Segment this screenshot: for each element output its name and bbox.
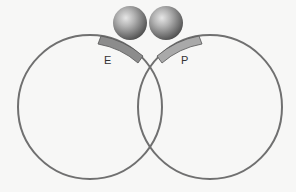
sphere-right: [149, 6, 183, 40]
sphere-left: [113, 6, 147, 40]
label-p: P: [181, 54, 188, 66]
site-p-tab: [157, 36, 202, 63]
two-site-diagram: E P: [0, 0, 296, 192]
label-e: E: [104, 54, 111, 66]
